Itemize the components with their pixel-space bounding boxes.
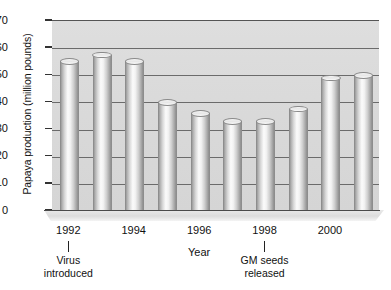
annotation-line-2: introduced bbox=[13, 267, 123, 280]
bar-cap-1995 bbox=[158, 99, 177, 106]
y-axis-title: Papaya production (million pounds) bbox=[21, 19, 33, 209]
x-tick-label-1992: 1992 bbox=[45, 224, 91, 236]
x-axis-baseline bbox=[44, 210, 380, 212]
annotation-1998: GM seedsreleased bbox=[210, 241, 320, 279]
papaya-production-bar-chart: Papaya production (million pounds) 01020… bbox=[0, 0, 391, 290]
y-tick-label-10: 10 bbox=[0, 177, 8, 188]
y-tick-label-30: 30 bbox=[0, 123, 8, 134]
bar-cap-1994 bbox=[125, 58, 144, 65]
bar-1996 bbox=[191, 113, 210, 211]
annotation-1992: Virusintroduced bbox=[13, 241, 123, 279]
x-tick-label-1996: 1996 bbox=[176, 224, 222, 236]
y-tick-label-0: 0 bbox=[0, 205, 8, 216]
y-tick-mark-30 bbox=[45, 128, 52, 129]
bar-cap-1993 bbox=[92, 52, 111, 59]
bar-cap-1999 bbox=[289, 106, 308, 113]
y-tick-mark-40 bbox=[45, 101, 52, 102]
y-tick-label-40: 40 bbox=[0, 96, 8, 107]
bar-cap-1996 bbox=[191, 110, 210, 117]
bar-1993 bbox=[93, 55, 112, 211]
y-tick-mark-60 bbox=[45, 46, 52, 47]
bar-cap-1998 bbox=[256, 118, 275, 125]
bar-1994 bbox=[125, 62, 144, 211]
y-tick-label-20: 20 bbox=[0, 150, 8, 161]
y-tick-mark-10 bbox=[45, 182, 52, 183]
bar-2000 bbox=[321, 78, 340, 211]
bar-1992 bbox=[60, 62, 79, 211]
y-tick-mark-50 bbox=[45, 74, 52, 75]
x-tick-label-1998: 1998 bbox=[242, 224, 288, 236]
bar-1995 bbox=[158, 102, 177, 211]
x-tick-label-2000: 2000 bbox=[307, 224, 353, 236]
y-tick-label-70: 70 bbox=[0, 15, 8, 26]
annotation-line-2: released bbox=[210, 267, 320, 280]
y-tick-label-60: 60 bbox=[0, 42, 8, 53]
gridline-60 bbox=[52, 48, 379, 49]
y-tick-label-50: 50 bbox=[0, 69, 8, 80]
plot-area bbox=[52, 20, 379, 211]
bar-1998 bbox=[256, 121, 275, 211]
annotation-leader-line bbox=[68, 241, 69, 252]
annotation-line-1: Virus bbox=[13, 254, 123, 267]
annotation-line-1: GM seeds bbox=[210, 254, 320, 267]
bar-1997 bbox=[223, 121, 242, 211]
y-tick-mark-20 bbox=[45, 155, 52, 156]
y-tick-mark-70 bbox=[45, 19, 52, 20]
x-tick-label-1994: 1994 bbox=[111, 224, 157, 236]
bar-cap-1997 bbox=[223, 118, 242, 125]
bar-cap-2001 bbox=[354, 72, 373, 79]
bar-cap-1992 bbox=[60, 58, 79, 65]
annotation-leader-line bbox=[264, 241, 265, 252]
bar-2001 bbox=[354, 75, 373, 211]
bar-1999 bbox=[289, 109, 308, 211]
bar-cap-2000 bbox=[321, 75, 340, 82]
chart-floor bbox=[44, 210, 384, 221]
